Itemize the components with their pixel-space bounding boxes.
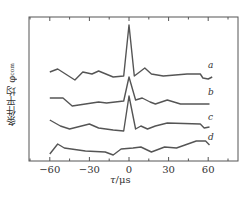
chart-canvas: −60−3003060 abcd [0, 0, 246, 197]
x-axis-ticks [30, 17, 228, 161]
x-tick-label: 30 [162, 164, 175, 175]
series-c-label: c [208, 112, 213, 122]
series-d-label: d [208, 132, 214, 142]
x-tick-label: 60 [202, 164, 215, 175]
series-labels: abcd [208, 60, 214, 142]
x-axis-label-unit: /μs [116, 174, 131, 185]
series-a-label: a [208, 60, 213, 70]
y-axis-label-subscript: com [8, 64, 15, 77]
series-b-label: b [208, 87, 214, 97]
x-tick-label: −30 [79, 164, 100, 175]
series-d-line [50, 141, 210, 155]
series-a-line [50, 25, 212, 80]
x-axis-label: τ/μs [110, 174, 131, 185]
data-series [50, 25, 212, 155]
y-axis-label: 条件平均 φcom [4, 50, 20, 140]
x-tick-label: −60 [39, 164, 60, 175]
plot-frame [29, 17, 238, 161]
y-axis-label-main: 条件平均 φ [6, 76, 17, 126]
series-c-line [50, 96, 210, 131]
